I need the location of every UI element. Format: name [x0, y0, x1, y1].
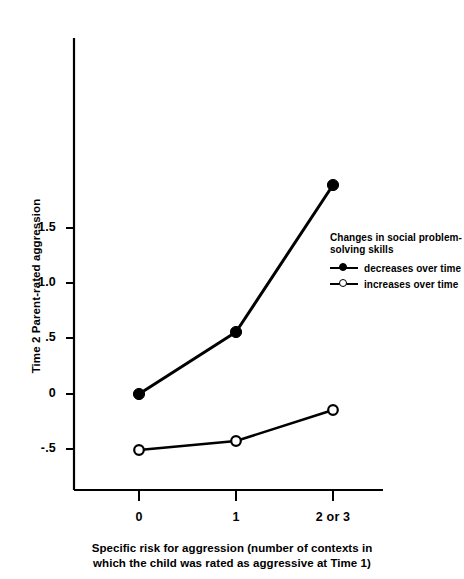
legend-title-line2: solving skills	[330, 244, 464, 256]
y-tick-label-neg0.5: -.5	[8, 441, 56, 455]
legend-item-decreases: decreases over time	[330, 262, 464, 274]
legend-label-increases: increases over time	[364, 279, 458, 290]
open-circle-marker-icon	[330, 278, 358, 290]
chart-figure: Time 2 Parent-rated aggression 1.5 1.0 .…	[0, 0, 464, 579]
series-decreases-point-1	[230, 326, 241, 337]
series-decreases-point-0	[133, 388, 144, 399]
series-increases-point-1	[231, 436, 241, 446]
chart-legend: Changes in social problem- solving skill…	[330, 232, 464, 290]
y-tick-label-1.5: 1.5	[8, 220, 56, 234]
x-axis-title-line1: Specific risk for aggression (number of …	[32, 541, 432, 556]
legend-title-line1: Changes in social problem-	[330, 232, 464, 244]
legend-label-decreases: decreases over time	[364, 263, 461, 274]
y-tick-label-0: 0	[8, 386, 56, 400]
series-decreases-point-2	[327, 179, 338, 190]
x-tick-label-2or3: 2 or 3	[316, 510, 351, 524]
series-increases-point-0	[134, 445, 144, 455]
y-tick-label-0.5: .5	[8, 330, 56, 344]
series-increases-point-2	[328, 405, 338, 415]
filled-circle-marker-icon	[330, 262, 358, 274]
legend-item-increases: increases over time	[330, 278, 464, 290]
series-decreases-line	[139, 185, 333, 394]
legend-title: Changes in social problem- solving skill…	[330, 232, 464, 255]
x-axis-title-line2: which the child was rated as aggressive …	[32, 556, 432, 571]
x-tick-label-0: 0	[135, 510, 142, 524]
y-tick-label-1.0: 1.0	[8, 275, 56, 289]
x-tick-label-1: 1	[232, 510, 239, 524]
x-axis-title: Specific risk for aggression (number of …	[32, 541, 432, 571]
